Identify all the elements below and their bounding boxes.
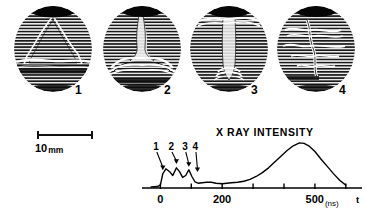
scale-bar-value: 10 bbox=[35, 142, 47, 154]
interferogram-frame-1: 1 bbox=[14, 6, 98, 101]
scale-bar-line bbox=[37, 134, 93, 136]
frame-label-2: 2 bbox=[164, 84, 171, 96]
interferogram-frame-2: 2 bbox=[103, 6, 187, 101]
interferogram-frame-3: 3 bbox=[190, 6, 274, 101]
annotation-label-4: 4 bbox=[192, 142, 198, 152]
interferogram-disc-4 bbox=[277, 6, 355, 92]
interferogram-frame-row: 1 bbox=[0, 0, 373, 120]
annotation-label-2: 2 bbox=[168, 142, 174, 152]
x-axis-unit: (ns) bbox=[325, 200, 339, 208]
scale-bar: 10mm bbox=[33, 131, 125, 163]
x-tick-label-200: 200 bbox=[213, 194, 231, 205]
interferogram-disc-1 bbox=[14, 6, 92, 92]
interferogram-disc-3 bbox=[190, 6, 268, 92]
scale-bar-unit: mm bbox=[48, 145, 63, 155]
frame-label-3: 3 bbox=[251, 84, 258, 96]
frame-label-4: 4 bbox=[339, 84, 346, 96]
x-tick-label-0: 0 bbox=[157, 194, 163, 205]
fringe-pattern-4 bbox=[277, 6, 355, 92]
fringe-pattern-3 bbox=[190, 6, 268, 92]
scale-bar-label: 10mm bbox=[35, 142, 63, 154]
intensity-curve bbox=[151, 143, 346, 187]
x-ray-intensity-chart: X RAY INTENSITY 0200500(ns)t1234 bbox=[140, 126, 373, 217]
fringe-pattern-2 bbox=[103, 6, 181, 92]
annotation-label-1: 1 bbox=[153, 142, 159, 152]
interferogram-disc-2 bbox=[103, 6, 181, 92]
annotation-label-3: 3 bbox=[182, 142, 188, 152]
frame-label-1: 1 bbox=[75, 84, 82, 96]
frame-time-arrows bbox=[157, 152, 200, 172]
interferogram-frame-4: 4 bbox=[277, 6, 361, 101]
x-axis-name: t bbox=[356, 195, 359, 205]
x-tick-label-500: 500 bbox=[306, 194, 324, 205]
fringe-pattern-1 bbox=[14, 6, 92, 92]
